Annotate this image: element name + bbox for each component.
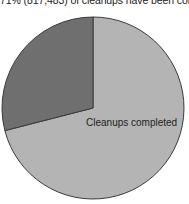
slice-label-completed: Cleanups completed [86,117,177,128]
pie-chart: Cleanups completed [0,0,189,204]
